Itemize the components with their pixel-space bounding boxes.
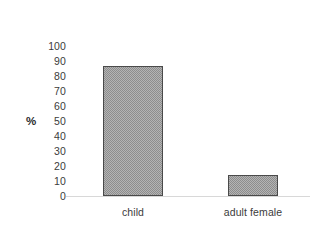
y-tick-label: 0 bbox=[26, 191, 66, 201]
bar-adult-female bbox=[228, 175, 278, 196]
y-tick-label: 80 bbox=[26, 71, 66, 81]
y-tick-label: 40 bbox=[26, 131, 66, 141]
bar-chart: 100 90 80 70 60 50 40 30 20 10 0 % child… bbox=[0, 0, 326, 243]
x-tick-label-adult-female: adult female bbox=[198, 206, 308, 218]
y-tick-label: 20 bbox=[26, 161, 66, 171]
y-tick-label: 70 bbox=[26, 86, 66, 96]
y-tick-label: 100 bbox=[26, 41, 66, 51]
y-tick-label: 30 bbox=[26, 146, 66, 156]
bar-child bbox=[103, 66, 163, 197]
y-axis-title: % bbox=[26, 116, 48, 126]
x-axis-baseline bbox=[66, 196, 310, 197]
y-tick-label: 10 bbox=[26, 176, 66, 186]
y-tick-label: 90 bbox=[26, 56, 66, 66]
y-tick-label: 60 bbox=[26, 101, 66, 111]
x-tick-label-child: child bbox=[73, 206, 193, 218]
